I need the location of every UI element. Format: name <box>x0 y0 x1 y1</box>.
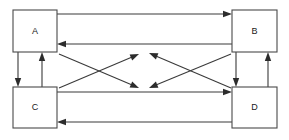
diagram-canvas: A B C D <box>0 0 289 140</box>
node-a-label: A <box>32 26 38 36</box>
edge-c-to-d[interactable] <box>57 89 232 96</box>
edge-c-to-a[interactable] <box>39 52 45 87</box>
node-group: A B C D <box>13 10 277 128</box>
edge-d-to-b[interactable] <box>265 52 271 87</box>
node-b[interactable]: B <box>232 10 277 52</box>
edge-a-to-c[interactable] <box>15 52 21 87</box>
edge-b-to-a[interactable] <box>57 41 232 48</box>
node-b-label: B <box>251 26 257 36</box>
edge-a-to-b[interactable] <box>57 11 232 18</box>
edge-d-to-c[interactable] <box>57 119 232 126</box>
diagram-svg: A B C D <box>0 0 289 140</box>
node-d-label: D <box>251 102 258 112</box>
node-d[interactable]: D <box>232 87 277 128</box>
node-c[interactable]: C <box>13 87 57 128</box>
node-c-label: C <box>32 102 39 112</box>
edge-b-to-d[interactable] <box>233 52 239 87</box>
node-a[interactable]: A <box>13 10 57 52</box>
